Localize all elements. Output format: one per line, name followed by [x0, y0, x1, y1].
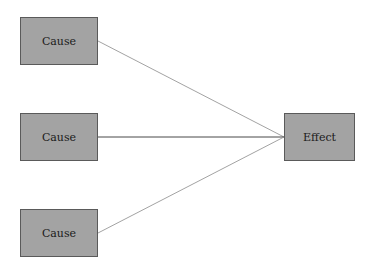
connector-cause-3 — [98, 137, 284, 233]
effect-label: Effect — [303, 131, 336, 144]
cause-label: Cause — [42, 131, 76, 144]
cause-box-2: Cause — [20, 113, 98, 161]
effect-box: Effect — [284, 113, 355, 161]
cause-box-1: Cause — [20, 17, 98, 65]
cause-label: Cause — [42, 227, 76, 240]
connector-cause-1 — [98, 41, 284, 137]
cause-label: Cause — [42, 35, 76, 48]
cause-box-3: Cause — [20, 209, 98, 257]
